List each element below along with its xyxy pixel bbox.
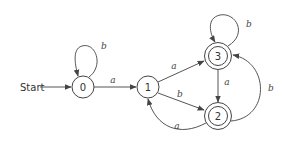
transition-0-1-a: a [94, 75, 136, 87]
state-3-accepting: 3 [205, 43, 232, 70]
state-1: 1 [137, 76, 159, 98]
transition-symbol: a [171, 61, 176, 71]
transition-3-2-a: a [218, 70, 230, 102]
state-0: 0 [72, 76, 94, 98]
transition-2-3-b: b [231, 55, 274, 121]
start-arrow: Start [20, 82, 71, 93]
transition-symbol: b [177, 89, 183, 99]
transition-symbol: b [101, 41, 107, 51]
state-label: 3 [215, 51, 221, 62]
transition-symbol: a [224, 77, 229, 87]
automaton-diagram: Start b a a b b a b a 0 [0, 0, 284, 142]
transition-symbol: b [268, 83, 274, 93]
transition-symbol: a [174, 121, 179, 131]
transition-1-3-a: a [158, 61, 204, 82]
state-label: 0 [80, 82, 86, 93]
state-label: 1 [145, 82, 151, 93]
transition-1-2-b: b [158, 89, 204, 110]
transition-symbol: a [110, 75, 115, 85]
transition-2-1-a: a [148, 99, 206, 131]
transition-symbol: b [246, 19, 252, 29]
state-label: 2 [215, 111, 221, 122]
transition-0-0-b: b [75, 41, 107, 77]
transition-3-3-b: b [210, 15, 252, 46]
state-2-accepting: 2 [205, 103, 232, 130]
